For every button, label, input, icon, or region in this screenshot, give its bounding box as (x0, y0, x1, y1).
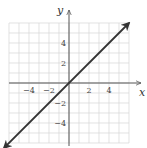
y-tick-label: −2 (54, 99, 66, 108)
x-tick-label: −2 (43, 86, 55, 95)
y-tick-label: −4 (54, 119, 66, 128)
y-tick-label: 4 (61, 39, 66, 48)
y-axis-label: y (56, 4, 64, 17)
x-axis-label: x (139, 86, 146, 99)
x-tick-label: −4 (23, 86, 35, 95)
x-tick-labels: −4−224 (23, 86, 111, 95)
x-tick-label: 2 (86, 86, 91, 95)
coordinate-plane: x y −4−224 42−2−4 (0, 0, 147, 148)
x-tick-label: 4 (106, 86, 111, 95)
y-tick-label: 2 (61, 59, 66, 68)
